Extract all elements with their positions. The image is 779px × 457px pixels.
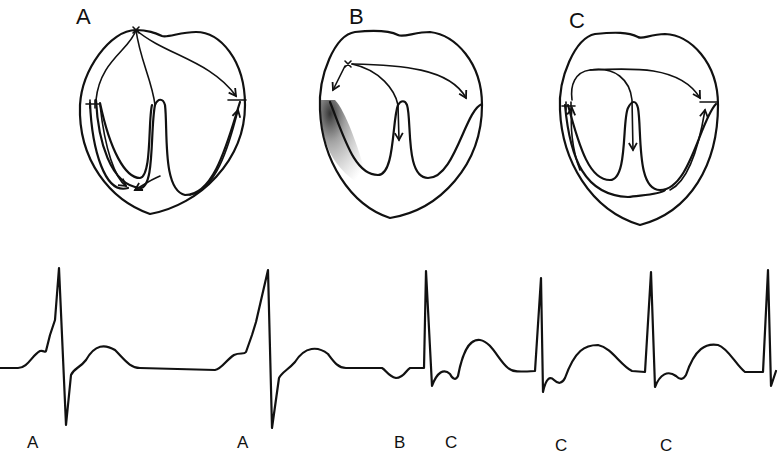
ecg-trace (0, 268, 776, 428)
figure-canvas (0, 0, 779, 457)
ecg-label-a1: A (27, 433, 38, 453)
heart-diagram-c (560, 33, 718, 225)
ecg-label-b: B (394, 433, 405, 453)
stippled-region (320, 100, 370, 190)
ecg-label-c1: C (445, 433, 457, 453)
ecg-label-c2: C (555, 436, 567, 456)
ecg-label-a2: A (237, 433, 248, 453)
heart-diagram-b (320, 31, 482, 218)
ecg-label-c3: C (660, 436, 672, 456)
heart-diagram-a (80, 27, 246, 214)
